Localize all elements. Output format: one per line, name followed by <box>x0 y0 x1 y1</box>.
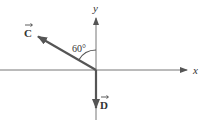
x-axis-label: x <box>192 64 198 76</box>
vector-d-text: D <box>100 99 108 111</box>
vector-c-text: C <box>24 27 32 39</box>
diagram-svg: y x C 60° D <box>0 0 203 128</box>
y-axis-label: y <box>92 2 98 14</box>
vector-d-label: D <box>100 96 109 112</box>
vector-c-arrow <box>38 37 96 71</box>
vector-diagram: y x C 60° D <box>0 0 203 128</box>
vector-c-label: C <box>24 24 33 40</box>
angle-label: 60° <box>72 43 86 54</box>
